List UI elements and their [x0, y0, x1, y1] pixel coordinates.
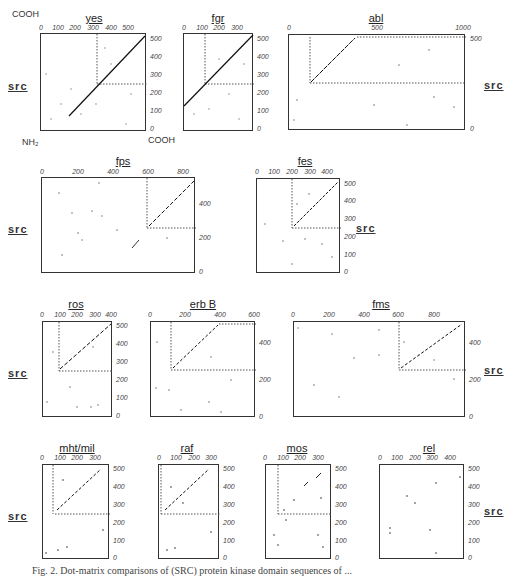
tick: 0 — [116, 412, 120, 419]
tick: 300 — [116, 358, 128, 365]
dotplot-abl — [288, 34, 465, 130]
tick: 300 — [312, 454, 324, 461]
tick: 0 — [39, 24, 43, 31]
tick: 500 — [150, 35, 162, 42]
tick: 0 — [470, 125, 474, 132]
tick: 0 — [157, 454, 161, 461]
tick: 200 — [71, 311, 83, 318]
tick: 100 — [150, 107, 162, 114]
tick: 100 — [468, 537, 480, 544]
tick: 500 — [122, 24, 134, 31]
panel-title-rel: rel — [423, 442, 435, 454]
tick: 0 — [40, 311, 44, 318]
tick: 600 — [248, 311, 260, 318]
tick: 300 — [257, 71, 269, 78]
tick: 200 — [69, 24, 81, 31]
tick: 400 — [469, 339, 481, 346]
tick: 300 — [223, 501, 235, 508]
tick: 100 — [54, 311, 66, 318]
tick: 200 — [468, 519, 480, 526]
tick: 500 — [468, 465, 480, 472]
tick: 100 — [277, 454, 289, 461]
tick: 400 — [468, 483, 480, 490]
tick: 1000 — [455, 24, 471, 31]
dotplot-yes-graphic — [41, 34, 147, 132]
tick: 600 — [392, 311, 404, 318]
tick: 400 — [321, 168, 333, 175]
tick: 500 — [223, 465, 235, 472]
tick: 300 — [87, 24, 99, 31]
tick: 100 — [54, 454, 66, 461]
panel-title-mht-mil: mht/mil — [59, 442, 94, 454]
tick: 300 — [89, 454, 101, 461]
tick: 200 — [188, 454, 200, 461]
dotplot-ros-graphic — [43, 322, 113, 418]
tick: 0 — [291, 311, 295, 318]
tick: 300 — [89, 311, 101, 318]
tick: 0 — [40, 454, 44, 461]
panel-title-mos: mos — [287, 442, 308, 454]
tick: 500 — [371, 24, 383, 31]
dotplot-yes — [40, 33, 146, 131]
tick: 200 — [335, 519, 347, 526]
tick: 100 — [391, 454, 403, 461]
tick: 0 — [255, 168, 259, 175]
tick: 400 — [344, 197, 356, 204]
tick: 400 — [223, 483, 235, 490]
tick: 300 — [205, 454, 217, 461]
tick: 0 — [223, 554, 227, 561]
dotplot-rel — [379, 464, 464, 559]
tick: 300 — [468, 501, 480, 508]
dotplot-rel-graphic — [380, 465, 465, 560]
tick: 300 — [426, 454, 438, 461]
dotplot-raf — [158, 464, 219, 559]
tick: 400 — [105, 311, 117, 318]
dotplot-mht-mil — [42, 464, 109, 559]
dotplot-fms — [293, 321, 465, 417]
tick: 100 — [170, 454, 182, 461]
tick: 200 — [150, 89, 162, 96]
tick: 0 — [378, 454, 382, 461]
tick: 200 — [344, 233, 356, 240]
tick: 0 — [199, 268, 203, 275]
tick: 300 — [344, 215, 356, 222]
dotplot-abl-graphic — [289, 35, 466, 131]
tick: 0 — [257, 125, 261, 132]
dotplot-fms-graphic — [294, 322, 466, 418]
tick: 200 — [116, 376, 128, 383]
tick: 200 — [223, 519, 235, 526]
dotplot-mht-mil-graphic — [43, 465, 110, 560]
cooh-top-label: COOH — [12, 9, 39, 19]
panel-title-ros: ros — [68, 298, 83, 310]
tick: 500 — [257, 35, 269, 42]
dotplot-fps-graphic — [42, 178, 196, 274]
tick: 400 — [150, 53, 162, 60]
tick: 200 — [294, 454, 306, 461]
panel-title-fes: fes — [298, 155, 313, 167]
tick: 300 — [113, 501, 125, 508]
tick: 500 — [335, 465, 347, 472]
tick: 400 — [444, 454, 456, 461]
src-label-row4: src — [8, 510, 28, 522]
tick: 0 — [469, 413, 473, 420]
tick: 200 — [259, 376, 271, 383]
tick: 200 — [213, 24, 225, 31]
tick: 300 — [304, 168, 316, 175]
tick: 400 — [335, 483, 347, 490]
panel-title-raf: raf — [181, 442, 194, 454]
tick: 100 — [268, 168, 280, 175]
tick: 400 — [105, 24, 117, 31]
tick: 0 — [40, 168, 44, 175]
src-label-rel: src — [484, 505, 504, 517]
tick: 500 — [344, 180, 356, 187]
tick: 400 — [259, 339, 271, 346]
dotplot-mos — [265, 464, 331, 559]
dotplot-erbb-graphic — [151, 322, 256, 418]
tick: 0 — [259, 413, 263, 420]
dotplot-ros — [42, 321, 112, 417]
src-label-row3: src — [8, 367, 28, 379]
tick: 400 — [199, 200, 211, 207]
tick: 200 — [323, 311, 335, 318]
nh2-label: NH₂ — [22, 137, 39, 147]
tick: 0 — [113, 554, 117, 561]
